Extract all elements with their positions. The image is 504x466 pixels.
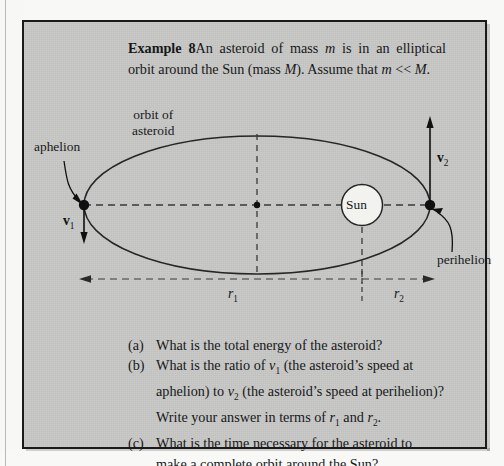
example-box: Example 8An asteroid of mass m is in an … bbox=[22, 20, 487, 449]
question-item-c: (c) What is the time necessary for the a… bbox=[128, 433, 446, 466]
statement-text-1: An asteroid of mass bbox=[195, 40, 325, 56]
orbit-ellipse bbox=[84, 136, 430, 274]
question-text-b: What is the ratio of v1 (the asteroid’s … bbox=[156, 355, 446, 433]
r2-label: r2 bbox=[394, 286, 404, 304]
statement-var-M2: M bbox=[415, 61, 427, 77]
orbit-label-line2: asteroid bbox=[132, 123, 174, 138]
v2-label-sub: 2 bbox=[444, 158, 449, 168]
v2-label-symbol: v bbox=[437, 150, 444, 165]
orbit-label: orbit of asteroid bbox=[132, 107, 174, 139]
question-item-b: (b) What is the ratio of v1 (the asteroi… bbox=[128, 355, 446, 433]
statement-var-m2: m bbox=[381, 61, 391, 77]
v1-arrowhead bbox=[80, 232, 87, 244]
page-edge-rule bbox=[5, 0, 6, 466]
statement-text-3: ). Assume that bbox=[296, 61, 381, 77]
statement-var-m: m bbox=[325, 40, 335, 56]
aphelion-leader-arrowhead bbox=[73, 194, 84, 206]
page-margin-top bbox=[0, 0, 504, 20]
scanned-page: Example 8An asteroid of mass m is in an … bbox=[0, 0, 504, 466]
v1-label-symbol: v bbox=[63, 213, 70, 228]
r1-label: r1 bbox=[228, 286, 238, 304]
aphelion-label: aphelion bbox=[34, 139, 80, 155]
page-margin-right bbox=[488, 0, 504, 466]
statement-text-5: . bbox=[427, 61, 431, 77]
perihelion-point bbox=[425, 200, 435, 210]
orbit-label-line1: orbit of bbox=[133, 107, 173, 122]
perihelion-leader-arrowhead bbox=[431, 208, 443, 214]
question-list: (a) What is the total energy of the aste… bbox=[128, 335, 446, 466]
question-marker-c: (c) bbox=[128, 433, 156, 453]
aphelion-leader-line bbox=[64, 161, 79, 201]
question-marker-a: (a) bbox=[128, 335, 156, 355]
perihelion-label: perihelion bbox=[437, 252, 491, 268]
v1-label-sub: 1 bbox=[70, 221, 75, 231]
dimension-arrowhead-left bbox=[79, 275, 91, 283]
r2-label-sub: 2 bbox=[399, 294, 404, 304]
sun-label: Sun bbox=[346, 197, 367, 213]
r1-label-sub: 1 bbox=[233, 294, 238, 304]
question-marker-b: (b) bbox=[128, 355, 156, 375]
v1-label: v1 bbox=[63, 213, 74, 231]
example-label: Example 8 bbox=[128, 40, 195, 56]
v2-arrowhead bbox=[426, 116, 433, 128]
v2-label: v2 bbox=[437, 150, 448, 168]
aphelion-point bbox=[79, 200, 89, 210]
statement-text-4: << bbox=[392, 61, 415, 77]
question-text-a: What is the total energy of the asteroid… bbox=[156, 335, 446, 355]
question-text-c: What is the time necessary for the aster… bbox=[156, 433, 446, 466]
page-margin-left bbox=[0, 0, 24, 466]
ellipse-center-point bbox=[254, 202, 260, 208]
example-statement: Example 8An asteroid of mass m is in an … bbox=[128, 38, 446, 79]
question-item-a: (a) What is the total energy of the aste… bbox=[128, 335, 446, 355]
dimension-arrowhead-right bbox=[423, 275, 435, 283]
perihelion-leader-line bbox=[437, 212, 452, 252]
example-box-shadow-right bbox=[487, 24, 490, 451]
statement-var-M: M bbox=[284, 61, 296, 77]
